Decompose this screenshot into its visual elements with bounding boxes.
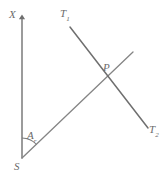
- line-t2-label: T2: [149, 124, 159, 138]
- line-t1-t2: [70, 27, 148, 128]
- ray-s-through-p-line: [22, 52, 133, 158]
- angle-a-label: Ar: [27, 130, 36, 144]
- angle-a-label-subscript: r: [34, 137, 37, 145]
- figure-container: X T1 P T2 Ar S: [0, 0, 168, 176]
- line-t1-label-subscript: 1: [66, 15, 70, 23]
- angle-a-label-base: A: [27, 129, 34, 141]
- intersection-point-label: P: [103, 62, 110, 73]
- line-t1-label: T1: [60, 8, 70, 22]
- vertex-s-label: S: [14, 161, 20, 172]
- axis-x-label: X: [9, 9, 16, 20]
- diagram-canvas: [0, 0, 168, 176]
- line-t2-label-subscript: 2: [155, 131, 159, 139]
